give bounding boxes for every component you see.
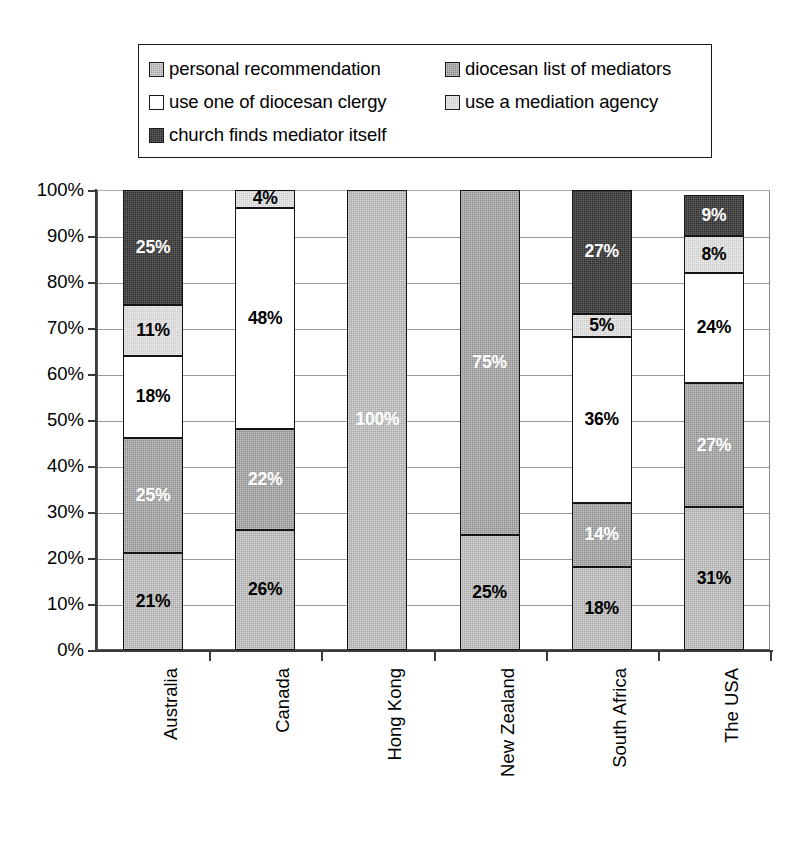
bar-segment-value-label: 26%	[248, 581, 282, 599]
x-axis-labels: AustraliaCanadaHong KongNew ZealandSouth…	[0, 0, 812, 852]
bar-segment-value-label: 14%	[585, 526, 619, 544]
bar-segment-value-label: 18%	[136, 388, 170, 406]
x-axis-category-label: The USA	[723, 668, 742, 798]
bar-segment-value-label: 100%	[355, 411, 399, 429]
x-axis-category: New Zealand	[479, 668, 505, 808]
bar-segment-value-label: 5%	[589, 317, 614, 335]
x-axis-category: Canada	[254, 668, 280, 808]
bar-segment-value-label: 36%	[585, 411, 619, 429]
stacked-bar-chart: personal recommendationdiocesan list of …	[0, 0, 812, 852]
x-axis-tick-mark	[546, 650, 548, 661]
x-axis-tick-mark	[770, 650, 772, 661]
bar-segment-value-label: 25%	[472, 584, 506, 602]
bar-segment-value-label: 27%	[697, 437, 731, 455]
x-axis-category: South Africa	[591, 668, 617, 808]
bar-segment-value-label: 25%	[136, 487, 170, 505]
bar-segment-value-label: 21%	[136, 593, 170, 611]
bar-segment-value-label: 25%	[136, 239, 170, 257]
bar-segment-value-label: 8%	[701, 246, 726, 264]
x-axis-category-label: South Africa	[611, 668, 630, 798]
x-axis-category: The USA	[703, 668, 729, 808]
x-axis-tick-mark	[209, 650, 211, 661]
bar-segment-value-label: 48%	[248, 310, 282, 328]
bar-segment-value-label: 24%	[697, 319, 731, 337]
x-axis-tick-mark	[434, 650, 436, 661]
x-axis-category-label: Australia	[162, 668, 181, 798]
bar-segment-value-label: 75%	[472, 354, 506, 372]
bar-segment-value-label: 31%	[697, 570, 731, 588]
bar-segment-value-label: 4%	[253, 190, 278, 208]
bar-segment-value-label: 9%	[701, 207, 726, 225]
x-axis-category: Hong Kong	[366, 668, 392, 808]
bar-segment-value-label: 22%	[248, 471, 282, 489]
x-axis-category-label: Hong Kong	[386, 668, 405, 798]
bar-segment-value-label: 18%	[585, 600, 619, 618]
x-axis-category-label: Canada	[274, 668, 293, 798]
x-axis-category-label: New Zealand	[499, 668, 518, 798]
x-axis-tick-mark	[321, 650, 323, 661]
x-axis-tick-mark	[658, 650, 660, 661]
x-axis-category: Australia	[142, 668, 168, 808]
bar-segment-value-label: 11%	[136, 322, 169, 340]
bar-segment-value-label: 27%	[585, 243, 619, 261]
